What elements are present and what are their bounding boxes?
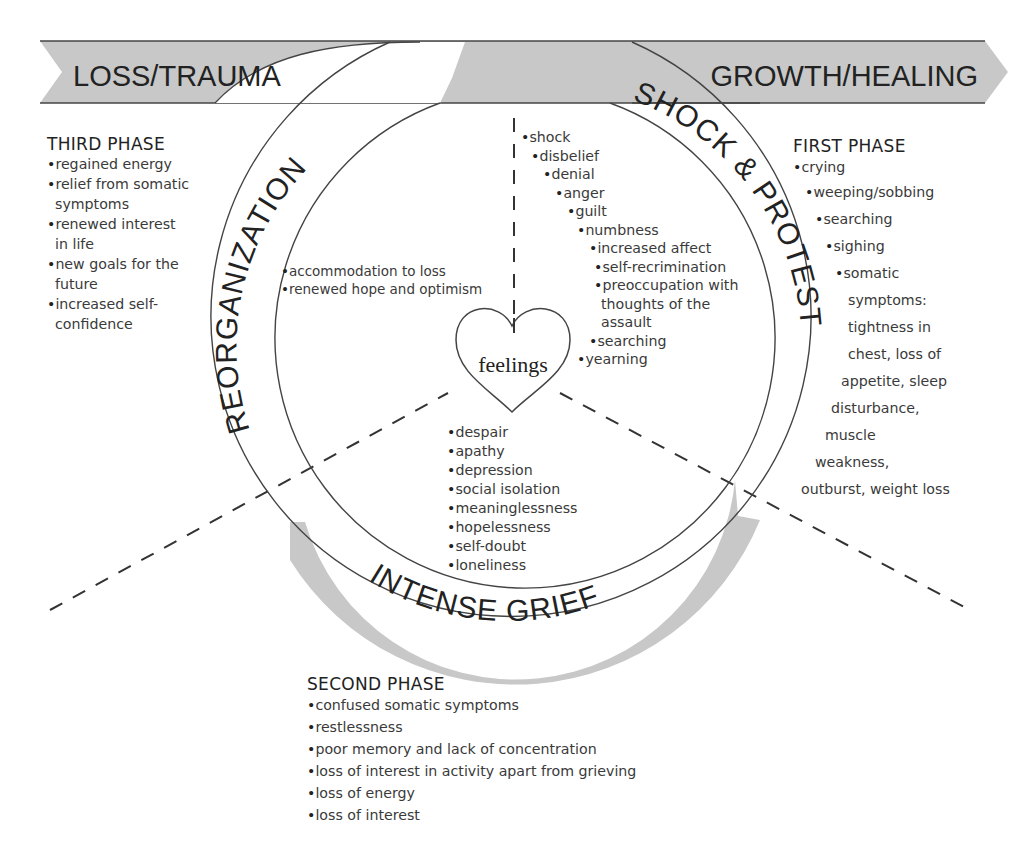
list-item: symptoms: (848, 287, 950, 314)
list-item: •guilt (567, 202, 738, 221)
list-item: •accommodation to loss (281, 262, 482, 280)
list-item: •loss of interest in activity apart from… (307, 760, 636, 782)
list-item: •self-doubt (447, 537, 578, 556)
reorganization-inner-list: •accommodation to loss •renewed hope and… (281, 262, 482, 298)
list-item: disturbance, (831, 395, 950, 422)
list-item: chest, loss of (848, 341, 950, 368)
list-item: •denial (543, 165, 738, 184)
loss-trauma-label: LOSS/TRAUMA (73, 60, 282, 92)
growth-healing-label: GROWTH/HEALING (711, 60, 978, 92)
list-item: confidence (47, 314, 189, 334)
list-item: •relief from somatic (47, 174, 189, 194)
list-item: •restlessness (307, 716, 636, 738)
list-item: •regained energy (47, 154, 189, 174)
list-item: •meaninglessness (447, 499, 578, 518)
list-item: •searching (589, 332, 738, 351)
list-item: •depression (447, 461, 578, 480)
list-item: muscle (825, 422, 950, 449)
list-item: •disbelief (531, 147, 738, 166)
list-item: •yearning (577, 350, 738, 369)
shock-protest-inner-list: •shock •disbelief •denial •anger •guilt … (521, 128, 738, 369)
list-item: •social isolation (447, 480, 578, 499)
first-phase-panel: FIRST PHASE •crying •weeping/sobbing •se… (793, 137, 950, 503)
intense-grief-inner-list: •despair •apathy •depression •social iso… (447, 423, 578, 575)
list-item: weakness, (815, 449, 950, 476)
list-item: •loneliness (447, 556, 578, 575)
list-item: assault (601, 313, 738, 332)
list-item: future (47, 274, 189, 294)
list-item: •increased affect (589, 239, 738, 258)
list-item: •sighing (825, 233, 950, 260)
list-item: •weeping/sobbing (805, 179, 950, 206)
list-item: thoughts of the (601, 295, 738, 314)
list-item: •searching (815, 206, 950, 233)
list-item: appetite, sleep (841, 368, 950, 395)
list-item: •confused somatic symptoms (307, 694, 636, 716)
list-item: •self-recrimination (594, 258, 738, 277)
list-item: •loss of interest (307, 804, 636, 826)
third-phase-panel: THIRD PHASE •regained energy •relief fro… (47, 135, 189, 334)
list-item: •hopelessness (447, 518, 578, 537)
first-phase-title: FIRST PHASE (793, 137, 950, 156)
list-item: •somatic (835, 260, 950, 287)
list-item: •apathy (447, 442, 578, 461)
list-item: •despair (447, 423, 578, 442)
third-phase-title: THIRD PHASE (47, 135, 189, 154)
list-item: •crying (793, 156, 950, 179)
second-phase-panel: SECOND PHASE •confused somatic symptoms … (307, 675, 636, 826)
list-item: symptoms (47, 194, 189, 214)
list-item: •numbness (577, 221, 738, 240)
list-item: •renewed interest (47, 214, 189, 234)
list-item: •new goals for the (47, 254, 189, 274)
list-item: tightness in (848, 314, 950, 341)
list-item: •renewed hope and optimism (281, 280, 482, 298)
list-item: •preoccupation with (594, 276, 738, 295)
loss-to-growth-arrow: LOSS/TRAUMA GROWTH/HEALING (40, 41, 1008, 103)
list-item: in life (47, 234, 189, 254)
list-item: •shock (521, 128, 738, 147)
list-item: •poor memory and lack of concentration (307, 738, 636, 760)
list-item: •anger (555, 184, 738, 203)
list-item: outburst, weight loss (801, 476, 950, 503)
list-item: •loss of energy (307, 782, 636, 804)
second-phase-title: SECOND PHASE (307, 675, 636, 694)
list-item: •increased self- (47, 294, 189, 314)
